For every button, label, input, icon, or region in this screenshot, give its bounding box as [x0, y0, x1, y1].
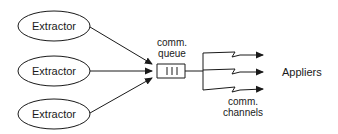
extractor-3-to-queue-arrow	[90, 78, 152, 113]
appliers-label: Appliers	[282, 66, 322, 78]
extractor-label-3: Extractor	[32, 108, 76, 120]
comm-channel-2	[203, 69, 263, 74]
comm-channels-label-line1: comm.	[223, 96, 263, 107]
comm-channel-3	[203, 87, 263, 92]
comm-channels-label: comm. channels	[223, 96, 263, 118]
comm-queue-label-line1: comm.	[157, 37, 187, 48]
comm-channel-1	[203, 52, 263, 57]
extractor-label-1: Extractor	[32, 20, 76, 32]
comm-queue-label-line2: queue	[157, 48, 187, 59]
comm-channels-label-line2: channels	[223, 107, 263, 118]
comm-queue-label: comm. queue	[157, 37, 187, 59]
comm-queue	[157, 64, 185, 78]
extractor-label-2: Extractor	[32, 65, 76, 77]
extractor-1-to-queue-arrow	[90, 27, 152, 64]
